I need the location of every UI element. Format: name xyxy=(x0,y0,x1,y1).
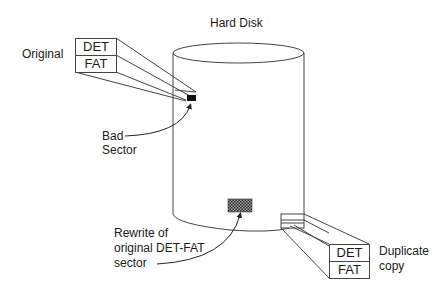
original-fat-cell: FAT xyxy=(75,56,117,72)
duplicate-fat-cell: FAT xyxy=(329,262,370,278)
duplicate-label-2: copy xyxy=(379,259,404,273)
rewrite-sector-block xyxy=(228,199,252,212)
original-label: Original xyxy=(22,47,63,61)
bad-sector-label-1: Bad xyxy=(102,129,123,143)
original-det-cell: DET xyxy=(75,39,117,55)
rewrite-arrow xyxy=(157,215,240,264)
diagram-title: Hard Disk xyxy=(210,16,263,30)
rewrite-label-2: original DET-FAT xyxy=(114,241,204,255)
duplicate-det-cell: DET xyxy=(329,245,370,261)
duplicate-label-1: Duplicate xyxy=(379,244,429,258)
bad-sector-label-2: Sector xyxy=(102,143,137,157)
rewrite-label-1: Rewrite of xyxy=(114,226,168,240)
bad-sector-block xyxy=(187,95,196,101)
rewrite-label-3: sector xyxy=(114,256,147,270)
hard-disk-diagram: Hard Disk Original DET FAT Bad Sector Re… xyxy=(0,0,448,296)
bad-sector-arrow xyxy=(125,106,190,136)
